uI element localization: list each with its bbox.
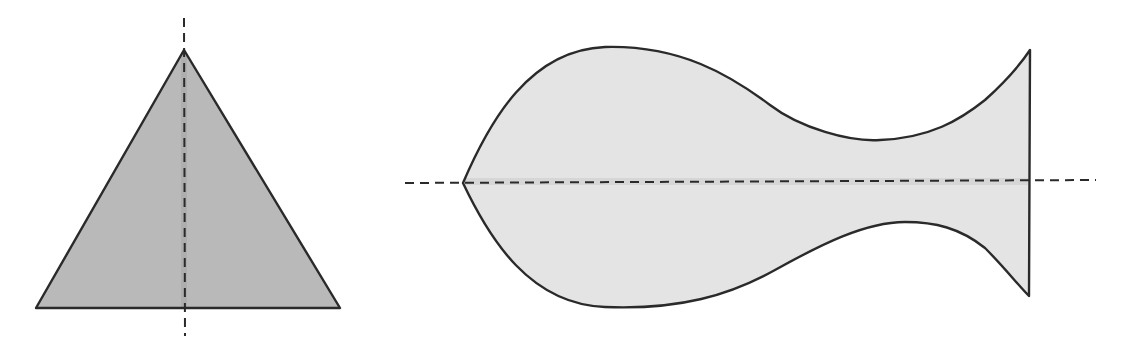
diagram-canvas	[0, 0, 1126, 344]
fish-body	[463, 47, 1030, 307]
triangle-axis-band	[181, 52, 187, 308]
triangle-body	[36, 50, 340, 308]
triangle-shape	[36, 18, 340, 336]
fish-axis-band	[465, 178, 1028, 185]
fish-shape	[405, 47, 1096, 307]
